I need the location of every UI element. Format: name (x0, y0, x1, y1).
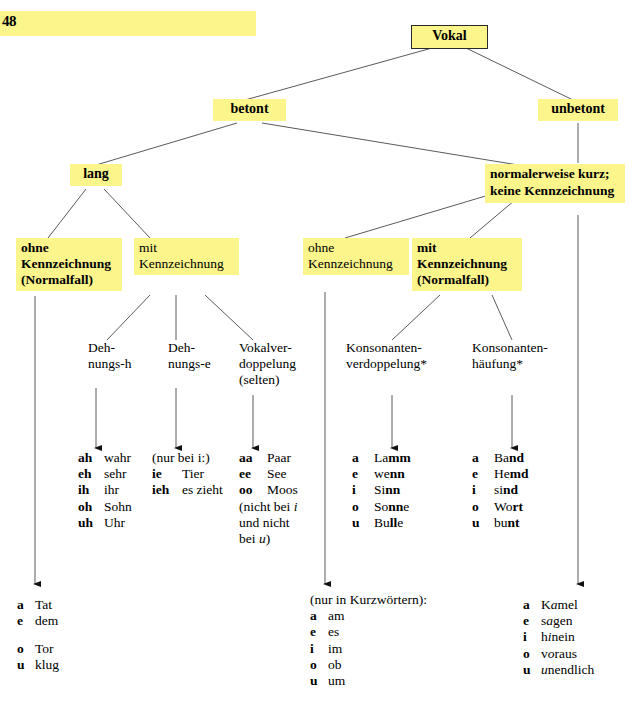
list-header: (nur bei i:) (152, 450, 223, 466)
word-voraus: voraus (541, 646, 577, 662)
node-unbetont[interactable]: unbetont (538, 99, 618, 121)
list-item: eHemd (472, 466, 529, 482)
list-item: aam (310, 608, 427, 624)
list-item: iim (310, 641, 427, 657)
list-dehnungs-h: ahwahr ehsehr ihihr ohSohn uhUhr (78, 450, 132, 531)
list-item: aTat (17, 597, 59, 613)
label-vokalverdoppelung: Vokalver- doppelung (selten) (239, 340, 331, 389)
list-kurz-ohne-kennzeichnung: (nur in Kurzwörtern): aam ees iim oob uu… (310, 592, 427, 689)
list-item: ahwahr (78, 450, 132, 466)
list-item-empty (17, 629, 59, 640)
list-item: uunendlich (523, 662, 594, 678)
list-item: aaPaar (239, 450, 309, 466)
list-item: ieTier (152, 466, 223, 482)
list-unbetont: aKamel esagen ihinein ovoraus uunendlich (523, 597, 594, 678)
list-item: oTor (17, 641, 59, 657)
diagram-canvas: 48 (0, 0, 635, 703)
list-note: (nicht bei i und nicht bei u) (239, 499, 309, 548)
page-header-banner (0, 11, 256, 36)
list-item: uhUhr (78, 515, 132, 531)
word-unendlich: unendlich (541, 662, 594, 678)
list-item: ohSohn (78, 499, 132, 515)
list-konsonantenhaeufung: aBand eHemd isind oWort ubunt (472, 450, 529, 531)
list-item: ubunt (472, 515, 529, 531)
list-item: uum (310, 673, 427, 689)
label-konsonantenhaeufung: Konsonanten- häufung* (472, 340, 582, 372)
list-item: uklug (17, 657, 59, 673)
list-item: edem (17, 613, 59, 629)
list-item: oWort (472, 499, 529, 515)
list-item: aKamel (523, 597, 594, 613)
list-item: ooMoos (239, 482, 309, 498)
list-vokalverdoppelung: aaPaar eeSee ooMoos (nicht bei i und nic… (239, 450, 309, 547)
list-item: eeSee (239, 466, 309, 482)
list-item: ewenn (352, 466, 411, 482)
node-vokal[interactable]: Vokal (411, 25, 488, 49)
list-item: iSinn (352, 482, 411, 498)
node-lang[interactable]: lang (70, 164, 122, 186)
list-item: oob (310, 657, 427, 673)
word-hinein: hinein (541, 629, 575, 645)
list-item: aBand (472, 450, 529, 466)
word-sagen: sagen (541, 613, 573, 629)
list-dehnungs-e: (nur bei i:) ieTier iehes zieht (152, 450, 223, 499)
list-header: (nur in Kurzwörtern): (310, 592, 427, 608)
list-item: ihinein (523, 629, 594, 645)
list-item: esagen (523, 613, 594, 629)
node-lang-mit-kennzeichnung[interactable]: mit Kennzeichnung (134, 238, 239, 275)
page-number: 48 (2, 13, 16, 30)
list-item: uBulle (352, 515, 411, 531)
node-betont[interactable]: betont (213, 99, 286, 121)
node-kurz-ohne-kennzeichnung[interactable]: ohne Kennzeichnung (303, 238, 409, 275)
node-normalerweise-kurz[interactable]: normalerweise kurz; keine Kennzeichnung (485, 164, 625, 203)
list-konsonantenverdoppelung: aLamm ewenn iSinn oSonne uBulle (352, 450, 411, 531)
list-lang-ohne-kennzeichnung: aTat edem oTor uklug (17, 597, 59, 673)
list-item: isind (472, 482, 529, 498)
label-dehnungs-e: Deh- nungs-e (168, 340, 248, 372)
list-item: oSonne (352, 499, 411, 515)
list-item: iehes zieht (152, 482, 223, 498)
label-konsonantenverdoppelung: Konsonanten- verdoppelung* (346, 340, 456, 372)
list-item: ees (310, 624, 427, 640)
node-kurz-mit-kennzeichnung[interactable]: mit Kennzeichnung (Normalfall) (412, 238, 522, 291)
list-item: aLamm (352, 450, 411, 466)
list-item: ihihr (78, 482, 132, 498)
node-lang-ohne-kennzeichnung[interactable]: ohne Kennzeichnung (Normalfall) (16, 238, 122, 291)
label-dehnungs-h: Deh- nungs-h (88, 340, 168, 372)
word-kamel: Kamel (541, 597, 578, 613)
list-item: ehsehr (78, 466, 132, 482)
list-item: ovoraus (523, 646, 594, 662)
